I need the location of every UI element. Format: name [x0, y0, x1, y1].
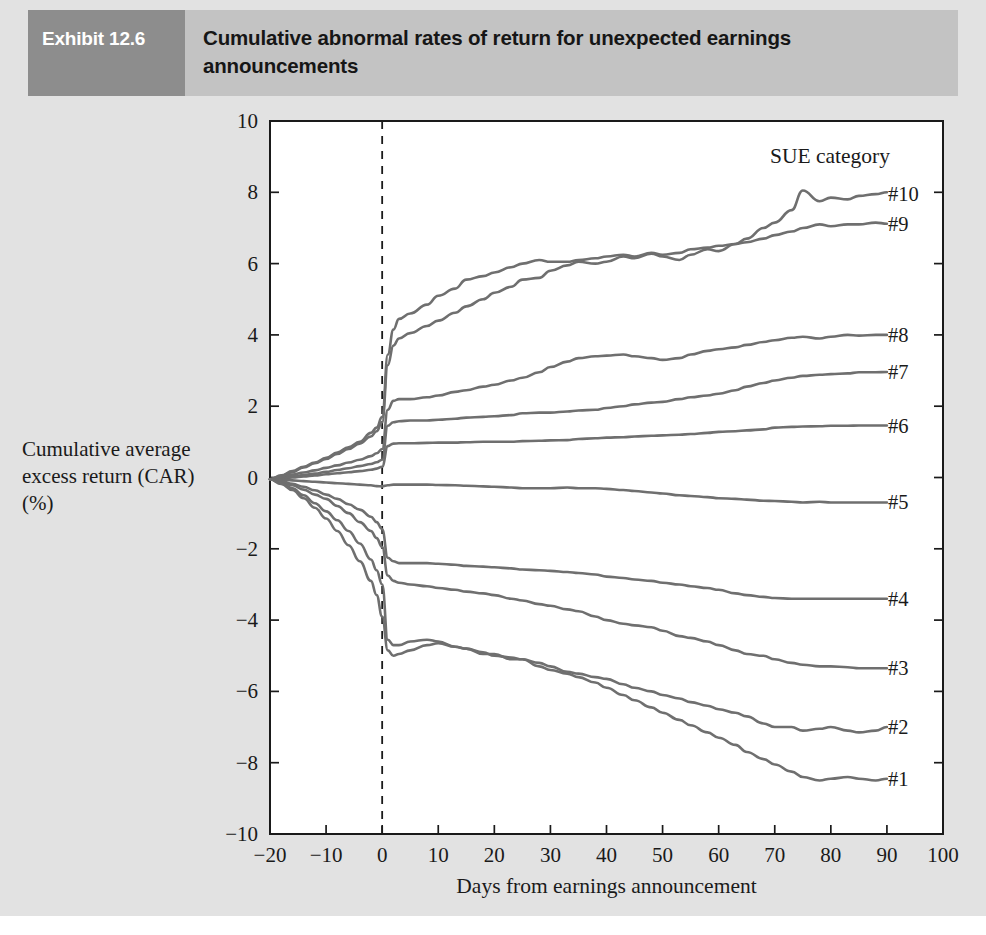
y-tick-label: 6: [248, 252, 259, 276]
series-label-num5: #5: [888, 491, 909, 513]
series-label-num2: #2: [888, 716, 909, 738]
series-label-num4: #4: [888, 588, 909, 610]
x-tick-label: −10: [310, 843, 343, 867]
x-tick-label: 90: [876, 843, 897, 867]
y-tick-label: −4: [236, 608, 259, 632]
legend-title: SUE category: [770, 144, 890, 168]
y-tick-label: −8: [236, 751, 258, 775]
y-tick-label: 0: [248, 466, 259, 490]
y-tick-label: −6: [236, 679, 258, 703]
chart-plot: −10−8−6−4−20246810−20−100102030405060708…: [0, 0, 986, 935]
x-tick-label: 20: [484, 843, 505, 867]
x-tick-label: 30: [540, 843, 561, 867]
x-axis-title-text: Days from earnings announcement: [456, 874, 756, 898]
x-tick-label: 0: [377, 843, 388, 867]
y-tick-label: 2: [248, 394, 259, 418]
plot-background: [270, 121, 943, 834]
x-tick-label: 50: [652, 843, 673, 867]
x-tick-label: 100: [927, 843, 959, 867]
x-tick-label: 70: [764, 843, 785, 867]
series-label-num6: #6: [888, 415, 909, 437]
series-label-num1: #1: [888, 768, 909, 790]
y-tick-label: −2: [236, 537, 258, 561]
series-label-num7: #7: [888, 361, 909, 383]
exhibit-figure: Exhibit 12.6 Cumulative abnormal rates o…: [0, 0, 986, 935]
x-tick-label: 80: [820, 843, 841, 867]
series-label-num9: #9: [888, 213, 909, 235]
series-label-num8: #8: [888, 324, 909, 346]
x-axis-title: Days from earnings announcement: [456, 874, 756, 898]
legend-title-text: SUE category: [770, 144, 890, 168]
series-label-num10: #10: [888, 183, 919, 205]
x-tick-label: 60: [708, 843, 729, 867]
x-tick-label: 40: [596, 843, 617, 867]
x-tick-label: −20: [254, 843, 287, 867]
series-label-num3: #3: [888, 657, 909, 679]
y-tick-label: 10: [237, 109, 258, 133]
y-tick-label: 8: [248, 180, 259, 204]
y-tick-label: 4: [248, 323, 259, 347]
x-tick-label: 10: [428, 843, 449, 867]
